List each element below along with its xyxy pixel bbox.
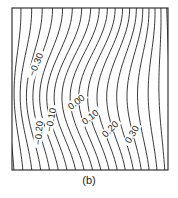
contour-line bbox=[14, 6, 23, 172]
contour-line bbox=[88, 6, 115, 172]
svg-text:−0.20: −0.20 bbox=[32, 120, 45, 145]
figure-caption: (b) bbox=[0, 174, 178, 186]
contour-label: 0.10 bbox=[77, 105, 103, 129]
contour-line bbox=[40, 6, 63, 172]
contour-label: 0.20 bbox=[97, 116, 122, 141]
contour-line bbox=[20, 6, 32, 172]
contour-line bbox=[79, 6, 108, 172]
contour-line bbox=[138, 6, 150, 172]
contour-lines: −0.30−0.20−0.100.000.100.200.30 bbox=[0, 6, 178, 172]
contour-line bbox=[175, 6, 178, 172]
contour-line bbox=[62, 6, 91, 172]
svg-text:−0.30: −0.30 bbox=[26, 51, 45, 77]
contour-plot: −0.30−0.20−0.100.000.100.200.30 bbox=[0, 0, 178, 198]
contour-line bbox=[159, 6, 165, 172]
contour-line bbox=[8, 6, 14, 172]
contour-label: −0.10 bbox=[43, 104, 59, 135]
contour-line bbox=[0, 6, 5, 172]
contour-label: 0.00 bbox=[63, 90, 89, 114]
contour-line bbox=[127, 6, 143, 172]
contour-line bbox=[70, 6, 99, 172]
contour-line bbox=[148, 6, 157, 172]
contour-figure: −0.30−0.20−0.100.000.100.200.30 bbox=[0, 0, 178, 198]
svg-text:−0.10: −0.10 bbox=[43, 107, 58, 133]
